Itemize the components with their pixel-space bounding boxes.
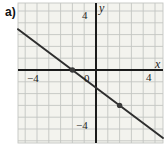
marked-point [70,67,75,72]
y-axis-label: y [99,2,104,14]
figure-panel: a) y x 4 −4 −4 4 0 [0,0,166,148]
x-tick-4: 4 [146,72,152,83]
x-axis-label: x [155,58,160,70]
y-tick-neg4: −4 [76,120,88,131]
y-tick-4: 4 [82,10,88,21]
marked-point [117,103,122,108]
origin-label: 0 [84,73,90,84]
x-tick-neg4: −4 [27,73,39,84]
